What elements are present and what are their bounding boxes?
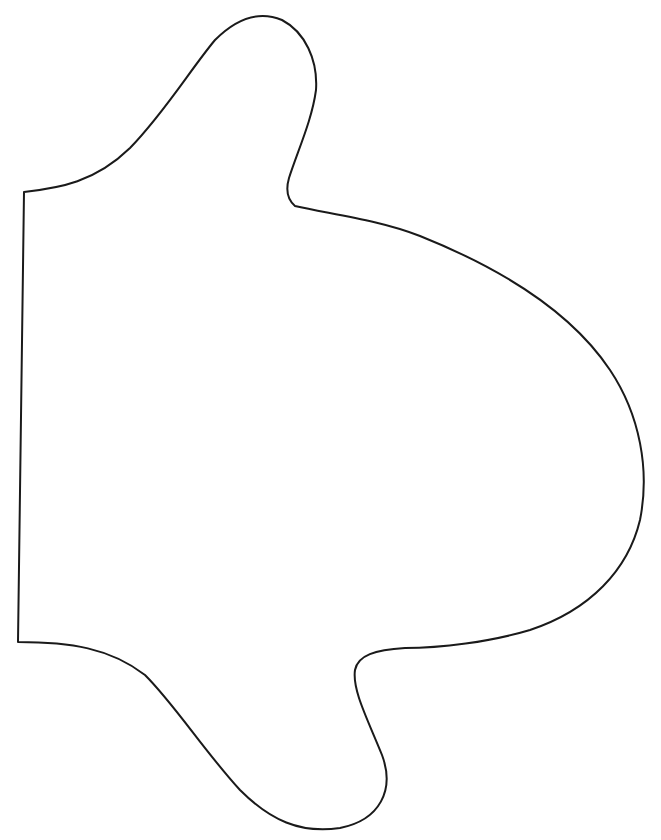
mitten-outline-drawing (0, 0, 661, 840)
mitten-outline-path (18, 16, 644, 829)
